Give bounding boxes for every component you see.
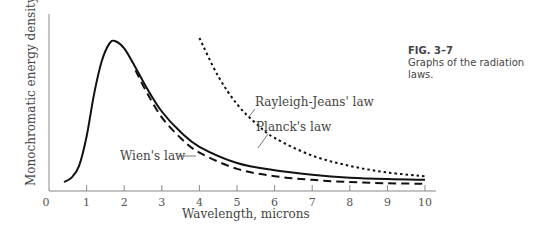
rayleigh-jeans-label: Rayleigh-Jeans' law bbox=[255, 95, 375, 109]
figure-caption-text: Graphs of the radiation laws. bbox=[408, 57, 541, 81]
x-tick-label: 8 bbox=[346, 196, 353, 209]
planck-curve bbox=[64, 41, 425, 182]
y-axis-title: Monochromatic energy density, Ψλ bbox=[24, 0, 38, 186]
x-axis-ticks bbox=[87, 185, 425, 191]
x-tick-label: 0 bbox=[43, 196, 50, 209]
wien-label: Wien's law bbox=[120, 149, 186, 163]
figure-number: FIG. 3–7 bbox=[408, 45, 541, 57]
x-axis-title: Wavelength, microns bbox=[182, 207, 310, 221]
planck-label: Planck's law bbox=[256, 120, 332, 134]
rayleigh-jeans-pointer bbox=[248, 109, 255, 118]
x-tick-label: 3 bbox=[158, 196, 165, 209]
x-tick-label: 10 bbox=[418, 196, 432, 209]
radiation-laws-chart: 012345678910 Planck's law Wien's law Ray… bbox=[0, 0, 541, 229]
planck-pointer bbox=[258, 134, 268, 148]
figure-caption: FIG. 3–7 Graphs of the radiation laws. bbox=[408, 45, 541, 81]
x-tick-label: 9 bbox=[384, 196, 391, 209]
x-tick-label: 1 bbox=[83, 196, 90, 209]
x-tick-label: 7 bbox=[309, 196, 316, 209]
x-tick-label: 2 bbox=[121, 196, 128, 209]
